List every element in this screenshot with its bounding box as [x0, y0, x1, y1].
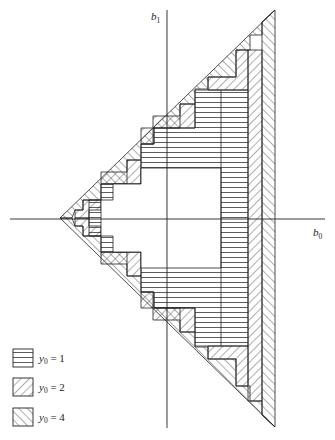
- svg-text:y0 = 4: y0 = 4: [38, 411, 65, 425]
- legend-item-y0-2: y0 = 2: [13, 378, 65, 396]
- legend-item-y0-4: y0 = 4: [13, 408, 65, 426]
- legend: y0 = 1 y0 = 2 y0 = 4: [13, 349, 65, 426]
- region-diagram: b1 b0 y0 = 1 y0 = 2 y0 = 4: [0, 0, 335, 440]
- region-y0-1: [89, 90, 248, 346]
- y-axis-label: b1: [151, 10, 161, 25]
- legend-item-y0-1: y0 = 1: [13, 349, 65, 367]
- x-axis-label: b0: [313, 226, 323, 241]
- svg-text:y0 = 2: y0 = 2: [38, 381, 65, 395]
- svg-text:y0 = 1: y0 = 1: [38, 352, 65, 366]
